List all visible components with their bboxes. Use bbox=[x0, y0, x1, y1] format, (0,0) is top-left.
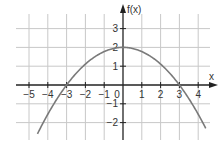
y-axis-arrow-icon bbox=[120, 4, 126, 13]
x-axis-label: x bbox=[209, 71, 214, 82]
x-tick-label: 1 bbox=[139, 89, 145, 100]
x-tick-label: 3 bbox=[177, 89, 183, 100]
tick-labels: −5−4−3−2−101234−2−1123 bbox=[23, 23, 201, 128]
x-tick-label: 4 bbox=[195, 89, 201, 100]
x-tick-label: −4 bbox=[42, 89, 54, 100]
y-tick-label: 1 bbox=[112, 61, 118, 72]
x-axis-arrow-icon bbox=[209, 82, 218, 88]
y-tick-label: 3 bbox=[112, 23, 118, 34]
x-tick-label: 2 bbox=[158, 89, 164, 100]
y-axis-label: f(x) bbox=[127, 4, 141, 15]
y-tick-label: −1 bbox=[107, 98, 119, 109]
function-graph: −5−4−3−2−101234−2−1123 x f(x) bbox=[0, 0, 220, 146]
y-tick-label: −2 bbox=[107, 117, 119, 128]
x-tick-label: −5 bbox=[23, 89, 35, 100]
x-tick-label: −2 bbox=[80, 89, 92, 100]
chart-canvas: −5−4−3−2−101234−2−1123 x f(x) bbox=[0, 0, 220, 146]
